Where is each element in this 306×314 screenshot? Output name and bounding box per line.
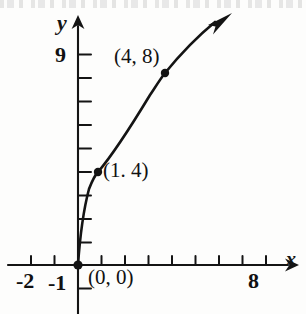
x-tick-label-8: 8 — [248, 270, 259, 292]
y-axis-label: y — [57, 12, 67, 34]
x-tick-label-negative-2: -2 — [16, 270, 34, 292]
data-point-1-4 — [94, 168, 102, 176]
point-label-4-8: (4, 8) — [114, 46, 160, 67]
y-tick-label-negative-1: -1 — [48, 272, 66, 294]
y-tick-label-9: 9 — [55, 44, 66, 66]
x-axis-label: x — [286, 249, 296, 269]
figure-canvas: y x 9 -1 -2 8 (4, 8) (1. 4) (0, 0) — [0, 0, 306, 314]
data-point-4-8 — [161, 69, 169, 77]
point-label-origin: (0, 0) — [88, 267, 134, 288]
curve-arrowhead — [208, 13, 232, 35]
x-axis-ticks — [31, 256, 266, 265]
point-label-1-4: (1. 4) — [103, 160, 149, 181]
data-point-origin — [73, 260, 82, 269]
